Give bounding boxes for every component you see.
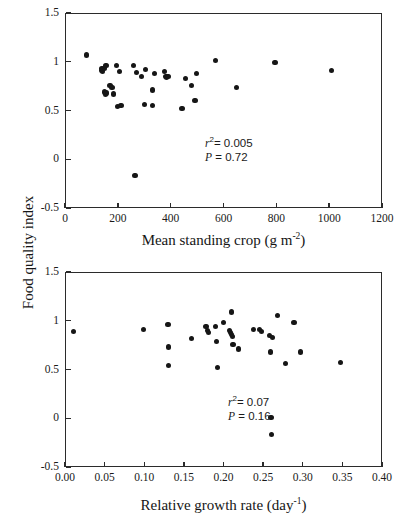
x-axis-title-tail-bottom: ) (301, 497, 306, 513)
data-point (109, 85, 114, 90)
data-point (229, 309, 234, 314)
data-point (234, 85, 239, 90)
x-tick-label: 400 (147, 212, 195, 224)
stats-annotation-top: r2= 0.005 P = 0.72 (205, 136, 253, 164)
p-label-bottom: P (228, 410, 235, 422)
x-tick-label: 0.40 (358, 471, 403, 483)
x-tick-mark (223, 203, 224, 208)
x-tick-label: 1200 (358, 212, 403, 224)
scatter-figure: Food quality index -0.500.511.5020040060… (0, 0, 403, 528)
x-tick-mark (381, 203, 382, 208)
y-tick-mark (66, 12, 71, 13)
data-point (131, 63, 136, 68)
y-tick-mark (66, 159, 71, 160)
x-tick-mark (276, 203, 277, 208)
y-tick-label: 0.5 (25, 363, 59, 375)
x-tick-mark (381, 462, 382, 467)
data-point (111, 91, 116, 96)
data-point (214, 339, 219, 344)
data-point (179, 106, 184, 111)
y-tick-label: 1.5 (25, 265, 59, 277)
y-tick-label: 0 (25, 411, 59, 423)
x-tick-mark (64, 203, 65, 208)
x-axis-title-bottom: Relative growth rate (day-1) (65, 497, 382, 514)
data-point (132, 173, 137, 178)
data-point (84, 52, 89, 57)
x-tick-label: 1000 (305, 212, 353, 224)
y-tick-mark (66, 207, 71, 208)
x-tick-mark (302, 462, 303, 467)
x-tick-mark (64, 462, 65, 467)
y-tick-label: 1.5 (25, 6, 59, 18)
data-point (230, 334, 235, 339)
data-point (230, 342, 235, 347)
data-point (183, 76, 188, 81)
r-squared-value-top: = 0.005 (214, 137, 253, 149)
x-axis-title-base-top: Mean standing crop (g m (142, 232, 293, 248)
x-tick-label: 200 (94, 212, 142, 224)
y-tick-mark (66, 110, 71, 111)
x-tick-mark (223, 462, 224, 467)
data-point (103, 63, 108, 68)
p-value-bottom: = 0.16 (238, 410, 270, 422)
x-axis-title-base-bottom: Relative growth rate (day (141, 497, 294, 513)
y-tick-label: 1 (25, 314, 59, 326)
y-tick-label: 0 (25, 152, 59, 164)
data-point (298, 349, 303, 354)
x-tick-mark (104, 462, 105, 467)
p-label-top: P (205, 151, 212, 163)
data-point (165, 74, 170, 79)
plot-frame-top (65, 13, 382, 208)
x-tick-mark (117, 203, 118, 208)
y-tick-mark (66, 61, 71, 62)
data-point (117, 69, 122, 74)
data-point (236, 346, 241, 351)
data-point (291, 320, 296, 325)
y-tick-label: 0.5 (25, 104, 59, 116)
y-tick-mark (66, 369, 71, 370)
y-tick-mark (66, 320, 71, 321)
data-point (104, 90, 109, 95)
data-point (329, 68, 334, 73)
x-tick-label: 0 (41, 212, 89, 224)
data-point (192, 98, 197, 103)
data-point (268, 349, 273, 354)
data-point (272, 60, 277, 65)
r-squared-value-bottom: = 0.07 (237, 396, 269, 408)
data-point (165, 322, 170, 327)
x-tick-label: 800 (252, 212, 300, 224)
y-tick-label: 1 (25, 55, 59, 67)
p-value-top: = 0.72 (215, 151, 247, 163)
x-tick-mark (183, 462, 184, 467)
stats-annotation-bottom: r2= 0.07 P = 0.16 (228, 395, 271, 423)
x-tick-label: 600 (200, 212, 248, 224)
x-axis-title-tail-top: ) (300, 232, 305, 248)
plot-frame-bottom (65, 272, 382, 467)
x-tick-mark (144, 462, 145, 467)
x-tick-mark (170, 203, 171, 208)
data-point (215, 365, 220, 370)
x-tick-mark (342, 462, 343, 467)
x-tick-mark (262, 462, 263, 467)
x-axis-title-top: Mean standing crop (g m-2) (65, 232, 382, 249)
data-point (118, 103, 123, 108)
data-point (152, 71, 157, 76)
y-tick-mark (66, 466, 71, 467)
data-point (150, 87, 155, 92)
x-tick-mark (328, 203, 329, 208)
data-point (206, 330, 211, 335)
y-tick-mark (66, 271, 71, 272)
y-tick-mark (66, 418, 71, 419)
